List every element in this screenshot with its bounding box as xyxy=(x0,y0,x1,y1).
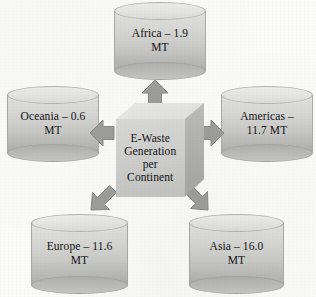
cylinder-bottom xyxy=(31,276,128,294)
cylinder-top xyxy=(114,2,206,20)
arrow-up-icon xyxy=(141,79,169,105)
cylinder-bottom xyxy=(221,144,313,162)
node-label-africa: Africa – 1.9 MT xyxy=(117,27,203,54)
arrow-left-icon xyxy=(89,119,115,147)
hub-label: E-Waste Generation per Continent xyxy=(116,119,185,197)
cylinder-bottom xyxy=(114,62,206,80)
node-label-europe: Europe – 11.6 MT xyxy=(34,240,125,267)
node-label-asia: Asia – 16.0 MT xyxy=(192,240,281,267)
cylinder-top xyxy=(31,214,128,232)
node-label-americas: Americas – 11.7 MT xyxy=(224,110,310,137)
cylinder-top xyxy=(221,86,313,104)
node-europe: Europe – 11.6 MT xyxy=(31,214,128,294)
node-label-oceania: Oceania – 0.6 MT xyxy=(10,110,96,137)
node-americas: Americas – 11.7 MT xyxy=(221,86,313,162)
ewaste-diagram: E-Waste Generation per Continent Africa … xyxy=(0,0,316,297)
cylinder-top xyxy=(7,86,99,104)
cylinder-top xyxy=(189,214,284,232)
node-asia: Asia – 16.0 MT xyxy=(189,214,284,294)
hub-node-ewaste-generation: E-Waste Generation per Continent xyxy=(116,103,204,197)
node-africa: Africa – 1.9 MT xyxy=(114,2,206,80)
cylinder-bottom xyxy=(7,144,99,162)
node-oceania: Oceania – 0.6 MT xyxy=(7,86,99,162)
cylinder-bottom xyxy=(189,276,284,294)
arrow-down-left-icon xyxy=(89,182,119,212)
